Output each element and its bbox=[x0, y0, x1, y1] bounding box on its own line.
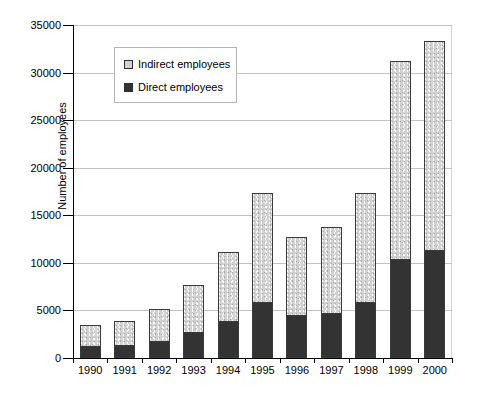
y-axis-tick bbox=[63, 263, 73, 264]
y-axis-tick-label: 30000 bbox=[15, 68, 61, 79]
bar-stack bbox=[424, 25, 445, 358]
x-axis-line bbox=[73, 358, 453, 359]
legend-item-indirect: Indirect employees bbox=[124, 57, 230, 71]
bar-segment-indirect bbox=[355, 193, 376, 303]
x-axis-tick bbox=[418, 358, 419, 363]
bar-segment-indirect bbox=[183, 285, 204, 334]
bar-segment-direct bbox=[252, 302, 273, 358]
direct-swatch-icon bbox=[124, 83, 133, 92]
x-axis-tick bbox=[176, 358, 177, 363]
legend-item-direct: Direct employees bbox=[124, 80, 223, 94]
bar-segment-indirect bbox=[286, 237, 307, 316]
bar-stack bbox=[321, 25, 342, 358]
employee-bar-chart: 05000100001500020000250003000035000 1990… bbox=[0, 0, 477, 401]
bar-segment-direct bbox=[321, 313, 342, 358]
bar-segment-indirect bbox=[252, 193, 273, 302]
legend-label-direct: Direct employees bbox=[138, 82, 223, 93]
x-axis-tick bbox=[107, 358, 108, 363]
y-axis-tick-label: 35000 bbox=[15, 20, 61, 31]
bar-segment-indirect bbox=[424, 41, 445, 250]
y-axis-tick-label: 0 bbox=[15, 353, 61, 364]
chart-legend: Indirect employees Direct employees bbox=[114, 47, 237, 103]
y-axis-tick-label: 5000 bbox=[15, 305, 61, 316]
bar-segment-direct bbox=[424, 250, 445, 358]
x-axis-tick bbox=[383, 358, 384, 363]
bar-segment-indirect bbox=[114, 321, 135, 346]
y-axis-tick-label: 10000 bbox=[15, 258, 61, 269]
indirect-swatch-icon bbox=[124, 60, 133, 69]
bar-segment-indirect bbox=[149, 309, 170, 342]
x-axis-tick bbox=[142, 358, 143, 363]
bar-segment-direct bbox=[218, 321, 239, 358]
x-axis-tick bbox=[349, 358, 350, 363]
y-axis-tick bbox=[63, 310, 73, 311]
bar-stack bbox=[80, 25, 101, 358]
x-axis-tick bbox=[73, 358, 74, 363]
bar-stack bbox=[390, 25, 411, 358]
bar-segment-indirect bbox=[390, 61, 411, 260]
bar-stack bbox=[355, 25, 376, 358]
bar-segment-direct bbox=[183, 332, 204, 358]
x-axis-tick bbox=[280, 358, 281, 363]
bar-segment-direct bbox=[390, 259, 411, 358]
y-axis-tick-label: 25000 bbox=[15, 115, 61, 126]
y-axis-tick-label: 15000 bbox=[15, 210, 61, 221]
y-axis-tick-labels: 05000100001500020000250003000035000 bbox=[8, 0, 61, 401]
bar-stack bbox=[252, 25, 273, 358]
legend-label-indirect: Indirect employees bbox=[138, 59, 230, 70]
bar-segment-direct bbox=[149, 341, 170, 358]
y-axis-tick bbox=[63, 73, 73, 74]
bar-segment-direct bbox=[114, 345, 135, 358]
bar-segment-direct bbox=[355, 302, 376, 358]
x-axis-tick bbox=[211, 358, 212, 363]
bar-segment-direct bbox=[80, 346, 101, 358]
y-axis-tick bbox=[63, 25, 73, 26]
bar-segment-indirect bbox=[218, 252, 239, 321]
x-axis-tick-label: 2000 bbox=[415, 364, 455, 376]
y-axis-title: Number of employees bbox=[56, 91, 68, 221]
y-axis-tick bbox=[63, 358, 73, 359]
bar-stack bbox=[286, 25, 307, 358]
bar-segment-direct bbox=[286, 315, 307, 358]
bar-segment-indirect bbox=[321, 227, 342, 315]
x-axis-tick bbox=[452, 358, 453, 363]
x-axis-tick bbox=[314, 358, 315, 363]
x-axis-tick bbox=[245, 358, 246, 363]
bar-segment-indirect bbox=[80, 325, 101, 347]
y-axis-tick-label: 20000 bbox=[15, 163, 61, 174]
